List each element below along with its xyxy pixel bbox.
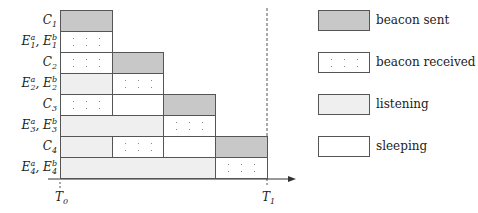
legend-swatch-listening xyxy=(318,94,370,115)
legend-swatch-sleeping xyxy=(318,136,370,157)
t1-label-sub: 1 xyxy=(270,197,275,206)
t0-label: T0 xyxy=(55,190,68,206)
t0-label-text: T xyxy=(55,190,63,204)
segment-received-e2 xyxy=(112,73,164,95)
segment-listening-c4 xyxy=(60,136,113,158)
legend-label-listening: listening xyxy=(376,94,429,115)
row-label-c1: C1 xyxy=(43,10,57,31)
row-label-e2: Ea2, Eb2 xyxy=(22,73,57,94)
legend-swatch-received xyxy=(318,52,370,73)
row-label-c4: C4 xyxy=(43,136,57,157)
row-label-c2: C2 xyxy=(43,52,57,73)
segment-sleeping-c3 xyxy=(112,94,164,116)
t1-label: T1 xyxy=(262,190,275,206)
row-label-c3: C3 xyxy=(43,94,57,115)
t1-label-text: T xyxy=(262,190,270,204)
segment-sent-c1 xyxy=(60,10,113,32)
segment-sent-c3 xyxy=(163,94,216,116)
beacon-timeline-diagram: C1Ea1, Eb1C2Ea2, Eb2C3Ea3, Eb3C4Ea4, Eb4… xyxy=(0,0,478,213)
t0-label-sub: 0 xyxy=(63,197,68,206)
legend-swatch-sent xyxy=(318,10,370,31)
segment-received-c2 xyxy=(60,52,113,74)
segment-received-e1 xyxy=(60,31,113,53)
segment-listening-e4 xyxy=(60,157,216,179)
row-label-e4: Ea4, Eb4 xyxy=(22,157,57,178)
segment-received-c4 xyxy=(112,136,164,158)
legend-label-sleeping: sleeping xyxy=(376,136,427,157)
axis-arrow-icon xyxy=(288,176,296,182)
segment-received-e4 xyxy=(215,157,268,179)
segment-received-e3 xyxy=(163,115,216,137)
segment-sleeping-c4 xyxy=(163,136,216,158)
segment-listening-e3 xyxy=(60,115,164,137)
row-label-e1: Ea1, Eb1 xyxy=(22,31,57,52)
legend-label-received: beacon received xyxy=(376,52,476,73)
segment-listening-e2 xyxy=(60,73,113,95)
segment-sent-c2 xyxy=(112,52,164,74)
segment-sent-c4 xyxy=(215,136,268,158)
row-label-e3: Ea3, Eb3 xyxy=(22,115,57,136)
segment-received-c3 xyxy=(60,94,113,116)
legend-label-sent: beacon sent xyxy=(376,10,449,31)
